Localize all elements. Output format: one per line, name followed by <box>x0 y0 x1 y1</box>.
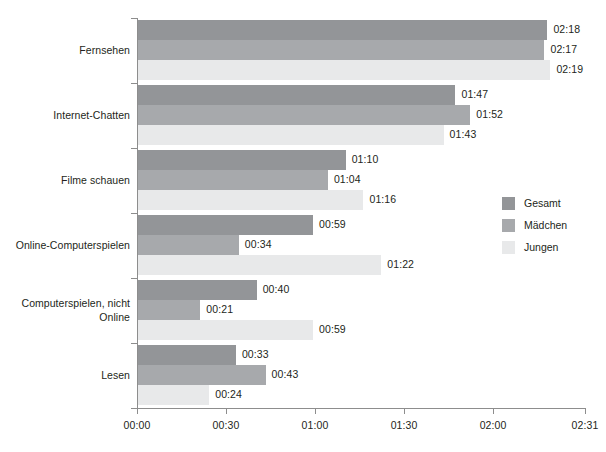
x-axis-tick <box>226 408 227 414</box>
legend-label: Gesamt <box>524 197 561 209</box>
bar-value-label: 01:43 <box>450 128 477 140</box>
bar-value-label: 00:59 <box>319 218 346 230</box>
y-axis-tick <box>131 213 137 214</box>
x-axis-tick-label: 01:30 <box>391 419 418 431</box>
bar-value-label: 01:52 <box>476 108 503 120</box>
bar <box>138 20 547 40</box>
bar-value-label: 01:16 <box>369 193 396 205</box>
legend-item[interactable]: Jungen <box>502 236 567 258</box>
y-axis-tick <box>131 18 137 19</box>
category-label: Fernsehen <box>79 43 130 57</box>
bar-value-label: 00:24 <box>215 388 242 400</box>
bar <box>138 345 236 365</box>
y-axis-tick <box>131 343 137 344</box>
category-label: Filme schauen <box>61 173 130 187</box>
bar-value-label: 00:33 <box>242 348 269 360</box>
y-axis-tick <box>131 83 137 84</box>
bar <box>138 170 328 190</box>
y-axis-tick <box>131 278 137 279</box>
bar <box>138 255 381 275</box>
bar <box>138 300 200 320</box>
bar-value-label: 00:43 <box>272 368 299 380</box>
x-axis-tick <box>493 408 494 414</box>
legend-item[interactable]: Mädchen <box>502 214 567 236</box>
legend-item[interactable]: Gesamt <box>502 192 567 214</box>
bar <box>138 235 239 255</box>
x-axis-tick <box>404 408 405 414</box>
bar <box>138 150 346 170</box>
legend: GesamtMädchenJungen <box>502 192 567 258</box>
x-axis-tick-label: 00:30 <box>213 419 240 431</box>
legend-swatch-icon <box>502 219 515 232</box>
category-label: Internet-Chatten <box>53 108 130 122</box>
bar <box>138 385 209 405</box>
bar-chart: FernsehenInternet-ChattenFilme schauenOn… <box>0 0 606 452</box>
x-axis-tick <box>137 408 138 414</box>
x-axis-tick <box>315 408 316 414</box>
bar <box>138 85 455 105</box>
bar <box>138 190 363 210</box>
x-axis-tick-label: 02:00 <box>480 419 507 431</box>
bar <box>138 105 470 125</box>
bar-value-label: 00:21 <box>206 303 233 315</box>
legend-swatch-icon <box>502 241 515 254</box>
bar-value-label: 01:22 <box>387 258 414 270</box>
x-axis-line <box>137 408 585 409</box>
bar-value-label: 01:47 <box>461 88 488 100</box>
legend-label: Mädchen <box>524 219 567 231</box>
bar <box>138 215 313 235</box>
bar <box>138 40 544 60</box>
x-axis-tick-label: 01:00 <box>302 419 329 431</box>
bar <box>138 60 550 80</box>
x-axis-tick <box>585 408 586 414</box>
legend-swatch-icon <box>502 197 515 210</box>
category-label: Online-Computerspielen <box>16 238 130 252</box>
legend-label: Jungen <box>524 241 558 253</box>
bar <box>138 320 313 340</box>
x-axis-tick-label: 02:31 <box>572 419 599 431</box>
category-label: Computerspielen, nicht Online <box>22 296 131 324</box>
bar-value-label: 02:19 <box>556 63 583 75</box>
bar <box>138 125 444 145</box>
bar-value-label: 02:17 <box>550 43 577 55</box>
bar <box>138 365 266 385</box>
bar-value-label: 02:18 <box>553 23 580 35</box>
bar-value-label: 01:04 <box>334 173 361 185</box>
bar <box>138 280 257 300</box>
bar-value-label: 01:10 <box>352 153 379 165</box>
bar-value-label: 00:40 <box>263 283 290 295</box>
y-axis-tick <box>131 148 137 149</box>
x-axis-tick-label: 00:00 <box>124 419 151 431</box>
bar-value-label: 00:34 <box>245 238 272 250</box>
bar-value-label: 00:59 <box>319 323 346 335</box>
category-label: Lesen <box>101 368 130 382</box>
